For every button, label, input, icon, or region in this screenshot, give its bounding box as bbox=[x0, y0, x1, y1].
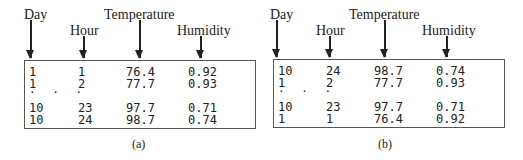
arrow-down-icon bbox=[139, 20, 141, 58]
cell-humidity: 0.92 bbox=[436, 113, 465, 125]
cell-day: 1 bbox=[278, 113, 285, 125]
data-table: 1 1 76.4 0.92 1 2 77.7 0.93 . . . 10 23 … bbox=[24, 60, 256, 129]
arrow-down-icon bbox=[329, 36, 331, 57]
label-humidity: Humidity bbox=[422, 24, 476, 38]
panel-b: Day Hour Temperature Humidity 10 24 98.7… bbox=[249, 0, 509, 160]
arrow-down-icon bbox=[276, 20, 278, 57]
caption: (b) bbox=[378, 137, 392, 152]
cell-humidity: 0.74 bbox=[188, 114, 217, 126]
panel-a: Day Hour Temperature Humidity 1 1 76.4 0… bbox=[0, 0, 260, 160]
ellipsis: . . . bbox=[278, 82, 336, 95]
ellipsis: . . . bbox=[29, 83, 87, 96]
label-humidity: Humidity bbox=[177, 24, 231, 38]
cell-hour: 1 bbox=[326, 113, 333, 125]
arrow-down-icon bbox=[30, 20, 32, 58]
data-table: 10 24 98.7 0.74 1 2 77.7 0.93 . . . 10 2… bbox=[273, 59, 505, 128]
cell-temperature: 98.7 bbox=[126, 114, 155, 126]
cell-humidity: 0.93 bbox=[188, 78, 217, 90]
arrow-down-icon bbox=[83, 36, 85, 58]
cell-humidity: 0.93 bbox=[436, 77, 465, 89]
cell-temperature: 77.7 bbox=[374, 77, 403, 89]
caption: (a) bbox=[132, 137, 145, 152]
cell-temperature: 77.7 bbox=[126, 78, 155, 90]
arrow-down-icon bbox=[384, 20, 386, 57]
label-day: Day bbox=[270, 8, 293, 22]
arrow-down-icon bbox=[200, 36, 202, 58]
cell-hour: 24 bbox=[78, 114, 92, 126]
cell-temperature: 76.4 bbox=[374, 113, 403, 125]
cell-day: 10 bbox=[29, 114, 43, 126]
label-day: Day bbox=[24, 8, 47, 22]
arrow-down-icon bbox=[446, 36, 448, 57]
